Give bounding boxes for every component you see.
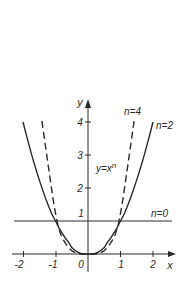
series-n0-label: n=0 xyxy=(151,208,168,219)
formula-base: y=x xyxy=(95,163,113,174)
y-tick-label: 1 xyxy=(78,208,84,219)
y-tick-label: 2 xyxy=(76,183,83,194)
x-tick-label: -1 xyxy=(49,259,58,270)
x-tick-label: 0 xyxy=(78,259,84,270)
power-function-chart: -2 -1 0 1 2 x 1 2 3 4 y n=4 n=2 n=0 y=xn xyxy=(0,0,186,286)
series-n4-label: n=4 xyxy=(124,106,141,117)
formula-label: y=xn xyxy=(95,161,117,174)
formula-exponent: n xyxy=(112,161,117,170)
y-tick-label: 3 xyxy=(77,150,83,161)
x-tick-label: 2 xyxy=(149,259,156,270)
x-axis-label: x xyxy=(166,259,173,271)
series-n2-label: n=2 xyxy=(156,120,173,131)
y-axis-label: y xyxy=(76,96,84,108)
y-axis-arrow-icon xyxy=(85,99,91,108)
x-tick-label: -2 xyxy=(15,259,24,270)
x-tick-label: 1 xyxy=(118,259,124,270)
y-tick-label: 4 xyxy=(77,117,83,128)
x-axis-arrow-icon xyxy=(168,251,176,257)
